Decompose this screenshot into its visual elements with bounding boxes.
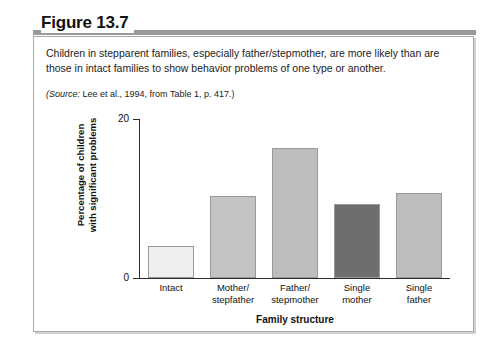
figure-page: Figure 13.7 Children in stepparent famil… <box>0 0 504 356</box>
bar-series <box>140 119 450 278</box>
y-tick-label-0: 0 <box>105 272 129 283</box>
figure-box: Children in stepparent families, especia… <box>33 36 474 332</box>
x-axis-tick-label-line1: Intact <box>159 282 182 293</box>
bar <box>396 193 442 278</box>
x-axis-tick-label-line2: mother <box>342 294 372 305</box>
x-axis-tick-label: Singlefather <box>383 282 455 305</box>
x-axis-tick-labels: IntactMother/stepfatherFather/stepmother… <box>140 282 450 310</box>
x-axis-tick-label-line1: Single <box>344 282 370 293</box>
x-axis-tick-label-line2: stepmother <box>271 294 319 305</box>
bar-chart: Percentage of children with significant … <box>34 37 475 331</box>
figure-number: Figure 13.7 <box>41 13 134 33</box>
bar <box>272 148 318 278</box>
y-axis-title-line1: Percentage of children <box>75 124 86 226</box>
x-axis-line <box>139 278 450 279</box>
x-axis-tick-label-line1: Mother/ <box>217 282 249 293</box>
x-axis-tick-label-line2: stepfather <box>212 294 254 305</box>
y-tick-label-20: 20 <box>105 113 129 124</box>
x-axis-title: Family structure <box>140 314 450 325</box>
x-axis-tick-label-line1: Father/ <box>280 282 310 293</box>
figure-heading: Figure 13.7 <box>33 13 476 38</box>
y-axis-title: Percentage of children with significant … <box>75 100 99 250</box>
y-axis-title-line2: with significant problems <box>87 118 98 233</box>
bar <box>148 246 194 278</box>
x-axis-tick-label-line1: Single <box>406 282 432 293</box>
bar <box>210 196 256 278</box>
x-axis-tick-label-line2: father <box>407 294 431 305</box>
bar <box>334 204 380 278</box>
